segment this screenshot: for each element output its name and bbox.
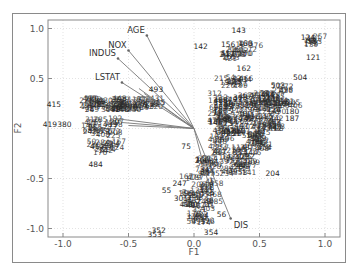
svg-text:253: 253 [266, 93, 281, 102]
point-label: 301 [174, 194, 189, 203]
x-tick-label: -1.0 [54, 239, 72, 249]
point-label: 274 [263, 123, 278, 132]
point-label: 187 [285, 114, 300, 123]
y-tick-label: -1.0 [26, 224, 44, 234]
vector-label: DIS [234, 220, 248, 230]
y-axis-label: F2 [13, 123, 23, 134]
svg-text:69: 69 [209, 103, 219, 112]
svg-text:141: 141 [242, 168, 257, 177]
svg-text:408: 408 [96, 130, 111, 139]
y-tick-label: -0.5 [26, 174, 44, 184]
point-label: 156 [221, 40, 236, 49]
svg-text:351: 351 [192, 205, 207, 214]
point-label: 354 [204, 228, 219, 237]
point-label: 503 [271, 81, 286, 90]
svg-text:50: 50 [87, 137, 97, 146]
svg-text:140: 140 [217, 128, 232, 137]
vector-label: INDUS [89, 48, 116, 58]
point-label: 124 [301, 33, 316, 42]
y-tick-label: 1.0 [30, 24, 45, 34]
point-label: 419 [43, 120, 58, 129]
point-label: 181 [280, 97, 295, 106]
biplot-chart: -1.0-0.50.00.51.0 1.00.5-0.5-1.0 5825429… [0, 0, 355, 273]
point-label: 484 [89, 160, 104, 169]
point-label: 162 [237, 64, 252, 73]
svg-text:434: 434 [237, 75, 252, 84]
svg-text:101: 101 [128, 103, 143, 112]
svg-text:396: 396 [225, 78, 240, 87]
x-tick-label: 1.0 [318, 239, 333, 249]
svg-text:59: 59 [224, 100, 234, 109]
svg-text:257: 257 [215, 143, 230, 152]
point-label: 380 [57, 120, 72, 129]
x-tick-label: 0.5 [252, 239, 266, 249]
svg-text:454: 454 [187, 194, 202, 203]
svg-text:234: 234 [83, 101, 98, 110]
point-label: 121 [306, 53, 321, 62]
svg-text:139: 139 [105, 118, 120, 127]
svg-text:490: 490 [200, 216, 215, 225]
y-tick-label: 0.5 [30, 74, 44, 84]
vector-age [147, 36, 194, 129]
point-label: 247 [172, 179, 187, 188]
point-label: 204 [265, 169, 280, 178]
svg-text:329: 329 [107, 103, 122, 112]
svg-text:234: 234 [219, 169, 234, 178]
point-label: 493 [149, 85, 164, 94]
svg-text:310: 310 [85, 115, 100, 124]
point-label: 160 [238, 39, 253, 48]
vector-indus [118, 59, 194, 129]
point-label: 283 [252, 134, 267, 143]
x-tick-label: -0.5 [120, 239, 138, 249]
point-label: 282 [241, 152, 256, 161]
x-axis-label: F1 [189, 247, 200, 257]
point-label: 415 [47, 100, 62, 109]
point-label: 75 [181, 142, 191, 151]
svg-text:47: 47 [104, 140, 114, 149]
svg-text:59: 59 [186, 217, 196, 226]
svg-text:217: 217 [202, 154, 217, 163]
point-label: 55 [162, 186, 172, 195]
point-label: 504 [293, 73, 308, 82]
point-label: 353 [148, 230, 163, 239]
point-label: 142 [193, 42, 208, 51]
observation-cloud: 5825429539125079894854782768611777176120… [79, 32, 327, 227]
vector-label: AGE [127, 25, 145, 35]
svg-text:206: 206 [191, 180, 206, 189]
vector-label: LSTAT [95, 72, 121, 82]
point-label: 56 [217, 210, 227, 219]
point-label: 143 [231, 26, 246, 35]
